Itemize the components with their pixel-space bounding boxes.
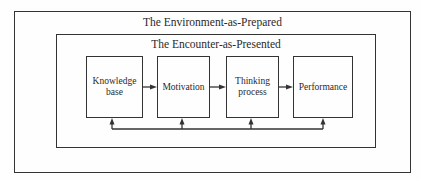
feedback-arrow-knowledge-icon — [110, 118, 115, 129]
arrow-thinking-to-performance-icon — [279, 85, 293, 90]
feedback-arrow-thinking-icon — [249, 118, 254, 129]
connector-lines — [0, 0, 421, 180]
feedback-arrow-performance-icon — [321, 118, 326, 129]
arrow-motivation-to-thinking-icon — [210, 85, 226, 90]
arrow-knowledge-to-motivation-icon — [143, 85, 157, 90]
feedback-arrow-motivation-icon — [180, 118, 185, 129]
